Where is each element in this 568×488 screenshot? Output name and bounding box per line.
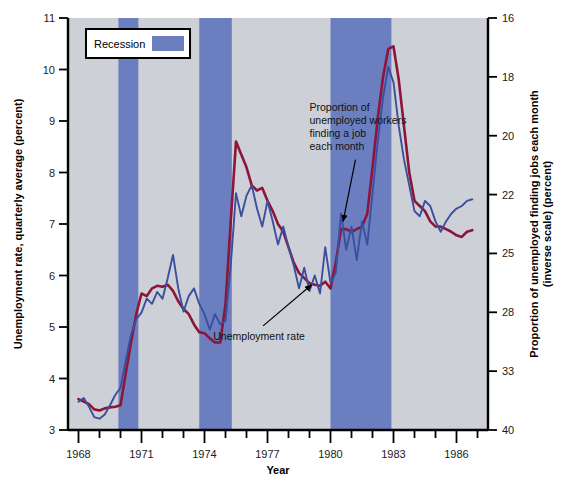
y-axis-right-title-line2: (inverse scale) (percent) [541,160,553,287]
job-finding-annotation-line: finding a job [310,127,367,139]
y-tick-label-right: 33 [502,365,514,377]
y-tick-label-right: 22 [502,189,514,201]
chart-figure: 3456789101116182022252833401968197119741… [0,0,568,488]
y-tick-label-left: 4 [49,373,55,385]
y-tick-label-left: 5 [49,321,55,333]
x-tick-label: 1968 [66,448,90,460]
chart-svg: 3456789101116182022252833401968197119741… [0,0,568,488]
y-tick-label-right: 28 [502,306,514,318]
y-axis-left-title: Unemployment rate, quarterly average (pe… [12,98,24,349]
x-tick-label: 1983 [381,448,405,460]
legend-swatch-recession [152,36,184,51]
y-tick-label-left: 8 [49,167,55,179]
job-finding-annotation-line: each month [310,140,365,152]
unemployment-rate-annotation-line: Unemployment rate [213,330,305,342]
y-tick-label-right: 40 [502,424,514,436]
y-tick-label-right: 25 [502,247,514,259]
y-tick-label-left: 11 [44,12,55,24]
y-tick-label-right: 16 [502,12,514,24]
y-tick-label-left: 9 [49,115,55,127]
y-tick-label-left: 6 [49,270,55,282]
y-tick-label-right: 18 [502,71,514,83]
x-tick-label: 1974 [192,448,216,460]
y-axis-right-title-line1: Proportion of unemployed finding jobs ea… [528,90,540,358]
recession-band [199,18,232,430]
job-finding-annotation-line: unemployed workers [310,114,407,126]
y-tick-label-left: 3 [49,424,55,436]
x-tick-label: 1971 [129,448,153,460]
job-finding-annotation-line: Proportion of [310,101,370,113]
x-tick-label: 1986 [444,448,468,460]
y-tick-label-left: 7 [49,218,55,230]
x-tick-label: 1980 [318,448,342,460]
x-tick-label: 1977 [255,448,279,460]
recession-band [118,18,138,430]
y-tick-label-right: 20 [502,130,514,142]
legend[interactable]: Recession [86,29,190,58]
legend-label-recession: Recession [94,38,145,50]
x-axis-title: Year [266,464,290,476]
y-tick-label-left: 10 [43,64,55,76]
